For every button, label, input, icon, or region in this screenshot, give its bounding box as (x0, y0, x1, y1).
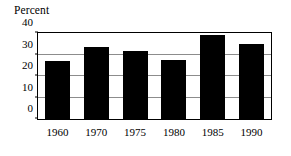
y-axis-tick-label: 20 (22, 60, 33, 71)
bar-chart-figure: Percent 01020304019601970197519801985199… (0, 0, 291, 156)
x-axis-tick-label: 1985 (202, 126, 224, 138)
y-axis-tick-label: 30 (22, 38, 33, 49)
y-axis-tick-label: 0 (28, 103, 34, 114)
y-axis-tick-label: 10 (22, 81, 33, 92)
x-axis-tick-label: 1990 (241, 126, 263, 138)
bar (123, 51, 148, 119)
bar (200, 35, 225, 119)
x-axis-tick-label: 1975 (124, 126, 146, 138)
x-axis-tick-label: 1980 (163, 126, 185, 138)
gridline (38, 54, 271, 55)
bar (239, 44, 264, 119)
plot-area: 010203040196019701975198019851990 (37, 32, 272, 120)
x-axis-tick-label: 1970 (85, 126, 107, 138)
y-axis-tick-mark (35, 53, 38, 54)
y-axis-tick-mark (35, 75, 38, 76)
plot-inner: 010203040196019701975198019851990 (38, 33, 271, 119)
x-axis-tick-label: 1960 (46, 126, 68, 138)
bar (45, 61, 70, 119)
bar (84, 47, 109, 119)
y-axis-tick-mark (35, 96, 38, 97)
bar (161, 60, 186, 119)
gridline (38, 97, 271, 98)
y-axis-tick-mark (35, 118, 38, 119)
y-axis-tick-mark (35, 32, 38, 33)
y-axis-tick-label: 40 (22, 17, 33, 28)
gridline (38, 75, 271, 76)
